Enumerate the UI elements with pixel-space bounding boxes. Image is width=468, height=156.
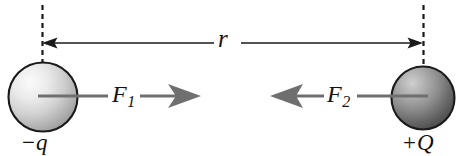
distance-label-text: r <box>218 25 228 52</box>
negative-charge-label: −q <box>22 131 47 154</box>
positive-charge-sign: + <box>403 130 417 155</box>
separation-distance-label: r <box>218 26 228 51</box>
force-f1-subscript: 1 <box>127 93 136 110</box>
diagram-canvas <box>0 0 468 156</box>
force-f1-label: F1 <box>112 82 135 110</box>
positive-charge-sphere <box>392 67 455 130</box>
positive-charge-label: +Q <box>403 131 434 154</box>
force-f1-symbol: F <box>112 81 127 107</box>
force-f2-label: F2 <box>327 82 350 110</box>
negative-charge-sign: − <box>22 130 36 155</box>
negative-charge-symbol: q <box>36 130 48 155</box>
reference-lines-group <box>43 5 424 68</box>
physics-diagram-coulomb-force: r F1 F2 −q +Q <box>0 0 468 156</box>
separation-distance-arrow <box>42 38 423 49</box>
force-f2-subscript: 2 <box>342 93 351 110</box>
positive-charge-symbol: Q <box>417 130 434 155</box>
positive-charge-body <box>392 67 455 130</box>
force-f2-symbol: F <box>327 81 342 107</box>
